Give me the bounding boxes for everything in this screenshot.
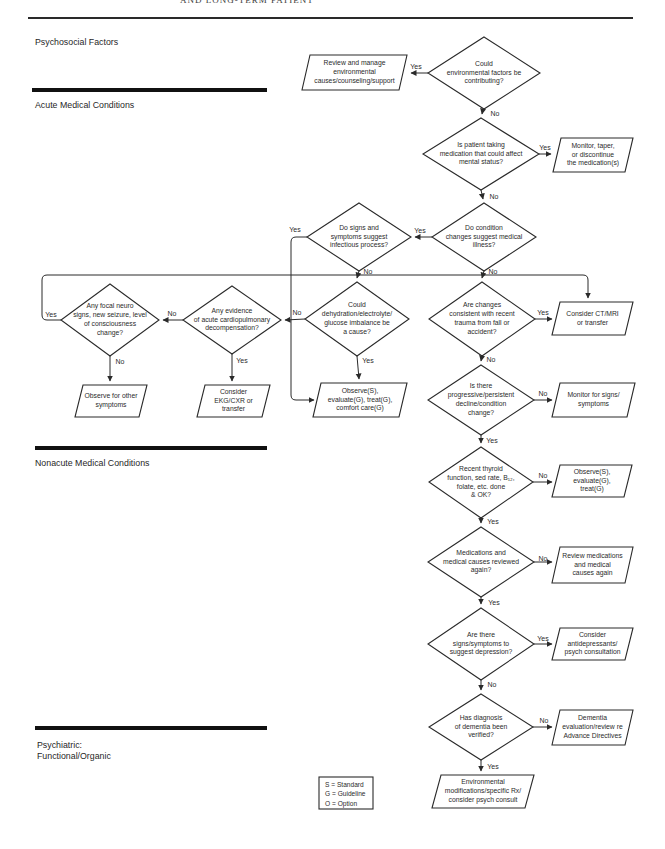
action-review-meds-text: Review medications and medical causes ag… (552, 547, 633, 583)
flowchart-page: AND LONG-TERM PATIENT (0, 0, 665, 849)
decision-cardiopulmonary-text: Any evidence of acute cardiopulmonary de… (183, 286, 281, 354)
edge-label-no: No (539, 555, 548, 562)
action-ekg-cxr-text: Consider EKG/CXR or transfer (197, 385, 270, 417)
edge-label-no: No (364, 268, 373, 275)
action-monitor-taper-text: Monitor, taper, or discontinue the medic… (553, 138, 633, 172)
connector-environmental-no (482, 109, 483, 114)
edge-label-yes: Yes (488, 599, 499, 606)
edge-label-no: No (491, 110, 500, 117)
edge-label-yes: Yes (414, 227, 425, 234)
section-label-psychiatric: Psychiatric: Functional/Organic (37, 740, 111, 762)
edge-label-yes: Yes (45, 311, 56, 318)
decision-environmental-factors-text: Could environmental factors be contribut… (428, 37, 540, 109)
decision-thyroid-labs-text: Recent thyroid function, sed rate, B₁₂, … (429, 447, 533, 518)
decision-dehydration-text: Could dehydration/electrolyte/ glucose i… (305, 282, 409, 356)
edge-label-yes: Yes (487, 518, 498, 525)
section-divider-acute (32, 88, 267, 92)
decision-medical-illness-text: Do condition changes suggest medical ill… (432, 203, 536, 271)
action-observe-evaluate-treat-text: Observe(S), evaluate(G), treat(G) (552, 465, 632, 497)
connector-dehydration-no (285, 319, 305, 320)
edge-label-yes: Yes (486, 437, 497, 444)
connector-medication-no (481, 190, 483, 199)
action-observe-other-text: Observe for other symptoms (75, 385, 147, 417)
edge-label-yes: Yes (362, 357, 373, 364)
decision-medication-text: Is patient taking medication that could … (423, 118, 539, 190)
edge-label-yes: Yes (410, 63, 421, 70)
top-rule (28, 17, 633, 19)
section-label-psychosocial: Psychosocial Factors (35, 37, 118, 48)
action-observe-comfort-text: Observe(S), evaluate(G), treat(G), comfo… (313, 383, 407, 417)
action-monitor-signs-text: Monitor for signs/ symptoms (552, 383, 635, 417)
section-label-acute: Acute Medical Conditions (35, 100, 134, 111)
edge-label-no: No (539, 390, 548, 397)
legend-standard: S = Standard (325, 780, 366, 789)
edge-label-no: No (116, 358, 125, 365)
edge-label-no: No (293, 309, 302, 316)
action-ct-mri-text: Consider CT/MRI or transfer (552, 302, 633, 335)
edge-label-no: No (488, 681, 497, 688)
decision-meds-reviewed-text: Medications and medical causes reviewed … (428, 527, 534, 597)
edge-label-yes: Yes (539, 144, 550, 151)
section-divider-nonacute (35, 446, 267, 450)
edge-label-no: No (168, 310, 177, 317)
decision-focal-neuro-text: Any focal neuro signs, new seizure, leve… (61, 284, 159, 356)
action-antidepressants-text: Consider antidepressants/ psych consulta… (552, 628, 633, 660)
decision-dementia-verified-text: Has diagnosis of dementia been verified? (429, 694, 533, 760)
legend-text: S = Standard G = Guideline O = Option (325, 780, 366, 808)
edge-label-yes: Yes (289, 226, 300, 233)
legend-guideline: G = Guideline (325, 789, 366, 798)
decision-decline-text: Is there progressive/persistent decline/… (428, 365, 534, 435)
connector-dehydration-yes (357, 356, 359, 379)
edge-label-no: No (487, 356, 496, 363)
edge-label-yes: Yes (537, 635, 548, 642)
action-review-environment-text: Review and manage environmental causes/c… (302, 55, 407, 90)
edge-label-yes: Yes (236, 357, 247, 364)
action-dementia-eval-text: Dementia evaluation/review re Advance Di… (552, 710, 633, 745)
legend-option: O = Option (325, 799, 366, 808)
edge-label-no: No (490, 193, 499, 200)
edge-label-yes: Yes (487, 763, 498, 770)
edge-label-no: No (539, 472, 548, 479)
section-label-nonacute: Nonacute Medical Conditions (35, 458, 149, 469)
edge-label-no: No (540, 717, 549, 724)
action-environment-mods-text: Environmental modifications/specific Rx/… (432, 775, 534, 808)
section-divider-psychiatric (35, 726, 267, 730)
decision-trauma-text: Are changes consistent with recent traum… (429, 282, 535, 356)
decision-depression-text: Are there signs/symptoms to suggest depr… (428, 608, 534, 680)
edge-label-yes: Yes (537, 309, 548, 316)
decision-infectious-process-text: Do signs and symptoms suggest infectious… (307, 203, 411, 271)
connector-trauma-no (481, 356, 482, 361)
edge-label-no: No (489, 268, 498, 275)
